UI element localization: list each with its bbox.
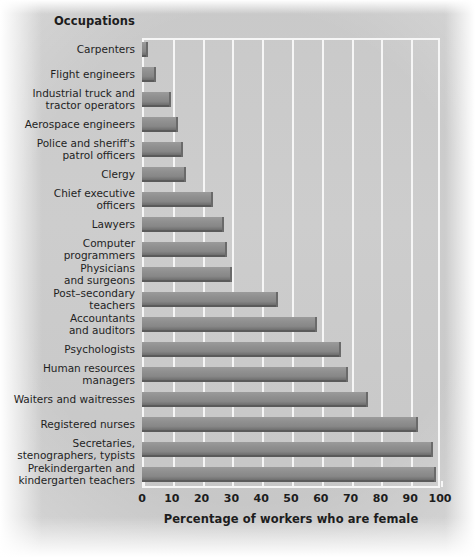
bar xyxy=(142,317,315,332)
category-label-line: and surgeons xyxy=(0,275,135,287)
category-label: Chief executiveofficers xyxy=(0,188,135,211)
category-label-line: Waiters and waitresses xyxy=(0,394,135,406)
category-label: Human resourcesmanagers xyxy=(0,363,135,386)
bar-row xyxy=(142,238,440,263)
bar xyxy=(142,192,211,207)
category-label-line: Human resources xyxy=(0,363,135,375)
bar xyxy=(142,92,169,107)
bar-row xyxy=(142,338,440,363)
category-label: Industrial truck andtractor operators xyxy=(0,88,135,111)
category-label-line: Secretaries, xyxy=(0,438,135,450)
occupations-column-title: Occupations xyxy=(0,14,135,28)
bar-row xyxy=(142,288,440,313)
bar xyxy=(142,242,225,257)
category-label-line: Police and sheriff's xyxy=(0,138,135,150)
category-label-line: Prekindergarten and xyxy=(0,463,135,475)
category-label-line: and auditors xyxy=(0,325,135,337)
category-label-line: Chief executive xyxy=(0,188,135,200)
bar xyxy=(142,267,230,282)
bar xyxy=(142,292,276,307)
category-label-line: officers xyxy=(0,200,135,212)
category-label: Physiciansand surgeons xyxy=(0,263,135,286)
x-axis-title: Percentage of workers who are female xyxy=(142,512,440,526)
x-tick-label: 100 xyxy=(420,492,460,505)
bar-row xyxy=(142,413,440,438)
category-label: Flight engineers xyxy=(0,69,135,81)
category-label-line: Physicians xyxy=(0,263,135,275)
category-label: Prekindergarten andkindergarten teachers xyxy=(0,463,135,486)
category-label-line: tractor operators xyxy=(0,100,135,112)
bar-row xyxy=(142,438,440,463)
bar-row xyxy=(142,138,440,163)
category-label-line: Post–secondary xyxy=(0,288,135,300)
category-label-line: Industrial truck and xyxy=(0,88,135,100)
category-label: Psychologists xyxy=(0,344,135,356)
bar-row xyxy=(142,163,440,188)
bar xyxy=(142,217,222,232)
category-label-line: Clergy xyxy=(0,169,135,181)
figure-bar-chart-occupations: Occupations CarpentersFlight engineersIn… xyxy=(0,0,475,557)
bar xyxy=(142,117,176,132)
category-label-line: Registered nurses xyxy=(0,419,135,431)
bar xyxy=(142,417,416,432)
category-label-line: Aerospace engineers xyxy=(0,119,135,131)
category-label: Accountantsand auditors xyxy=(0,313,135,336)
bar-row xyxy=(142,188,440,213)
category-label-line: Accountants xyxy=(0,313,135,325)
bar xyxy=(142,67,154,82)
category-label: Waiters and waitresses xyxy=(0,394,135,406)
category-label-line: managers xyxy=(0,375,135,387)
category-label-line: teachers xyxy=(0,300,135,312)
bar xyxy=(142,342,339,357)
bar-row xyxy=(142,263,440,288)
category-label-line: patrol officers xyxy=(0,150,135,162)
bar xyxy=(142,42,146,57)
bar-row xyxy=(142,363,440,388)
x-tick-mark xyxy=(441,481,443,487)
category-label: Computerprogrammers xyxy=(0,238,135,261)
bar-row xyxy=(142,63,440,88)
bar xyxy=(142,392,366,407)
bar-row xyxy=(142,388,440,413)
category-label-line: Flight engineers xyxy=(0,69,135,81)
category-label-line: Psychologists xyxy=(0,344,135,356)
bar-row xyxy=(142,213,440,238)
category-label: Lawyers xyxy=(0,219,135,231)
category-label-line: stenographers, typists xyxy=(0,450,135,462)
bar-row xyxy=(142,88,440,113)
category-label-line: Computer xyxy=(0,238,135,250)
bar-row xyxy=(142,113,440,138)
bar xyxy=(142,142,181,157)
category-label: Aerospace engineers xyxy=(0,119,135,131)
bar-row xyxy=(142,463,440,488)
bar xyxy=(142,167,184,182)
bar-row xyxy=(142,38,440,63)
bar xyxy=(142,367,346,382)
category-label-line: kindergarten teachers xyxy=(0,475,135,487)
bar-row xyxy=(142,313,440,338)
category-label: Clergy xyxy=(0,169,135,181)
bar xyxy=(142,467,434,482)
category-label-line: Carpenters xyxy=(0,44,135,56)
category-label: Carpenters xyxy=(0,44,135,56)
category-label-line: Lawyers xyxy=(0,219,135,231)
category-label-line: programmers xyxy=(0,250,135,262)
category-label: Police and sheriff'spatrol officers xyxy=(0,138,135,161)
category-label: Post–secondaryteachers xyxy=(0,288,135,311)
category-label: Secretaries,stenographers, typists xyxy=(0,438,135,461)
category-label: Registered nurses xyxy=(0,419,135,431)
bar xyxy=(142,442,431,457)
